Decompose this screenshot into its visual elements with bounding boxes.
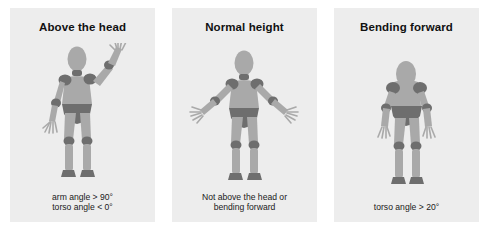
panel-normal-height: Normal height	[172, 8, 317, 222]
mannequin-above-the-head	[10, 34, 155, 192]
panel-caption: torso angle > 20°	[368, 202, 445, 213]
pose-categories-diagram: Above the head	[0, 0, 484, 237]
panel-caption: arm angle > 90° torso angle < 0°	[46, 192, 119, 213]
mannequin-normal-height	[172, 34, 317, 192]
mannequin-figure-icon	[339, 48, 474, 188]
panel-title: Above the head	[39, 21, 126, 34]
panel-caption: Not above the head or bending forward	[196, 192, 293, 213]
panel-title: Bending forward	[360, 21, 453, 34]
panel-above-the-head: Above the head	[10, 8, 155, 222]
mannequin-bending-forward	[334, 34, 479, 202]
panel-bending-forward: Bending forward	[334, 8, 479, 222]
mannequin-figure-icon	[15, 43, 150, 183]
panel-title: Normal height	[205, 21, 284, 34]
mannequin-figure-icon	[177, 43, 312, 183]
